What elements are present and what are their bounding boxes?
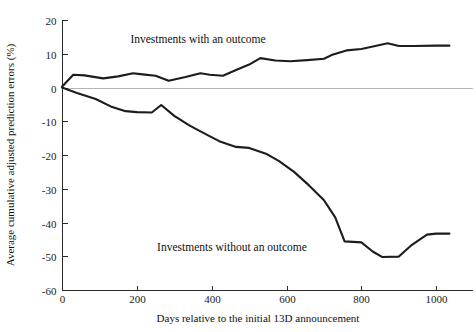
y-tick-label: 20 (46, 15, 58, 27)
series-annotations: Investments with an outcomeInvestments w… (130, 33, 306, 253)
series-annotation-2: Investments without an outcome (157, 241, 307, 253)
y-tick-label: 0 (51, 83, 57, 95)
x-tick-label: 200 (129, 293, 146, 305)
chart-figure: 20100-10-20-30-40-50-60 0200400600800100… (0, 0, 476, 332)
y-axis-title: Average cumulative adjusted prediction e… (4, 43, 17, 266)
y-tick-label: 10 (46, 49, 58, 61)
series-annotation-1: Investments with an outcome (130, 33, 265, 45)
y-tick-label: -50 (42, 251, 57, 263)
y-axis-tick-labels: 20100-10-20-30-40-50-60 (42, 15, 57, 297)
x-tick-label: 0 (60, 293, 66, 305)
y-tick-label: -30 (42, 184, 57, 196)
y-tick-label: -40 (42, 218, 57, 230)
x-axis-tick-labels: 02004006008001000 (60, 293, 448, 305)
x-tick-label: 800 (353, 293, 370, 305)
data-series-lines (62, 43, 449, 257)
x-tick-label: 400 (204, 293, 221, 305)
y-tick-label: -10 (42, 116, 57, 128)
x-axis-title: Days relative to the initial 13D announc… (157, 312, 360, 324)
line-chart: 20100-10-20-30-40-50-60 0200400600800100… (0, 0, 476, 332)
y-tick-label: -20 (42, 150, 57, 162)
x-tick-label: 1000 (426, 293, 449, 305)
y-tick-label: -60 (42, 285, 57, 297)
series-line-2 (62, 88, 449, 257)
x-tick-label: 600 (279, 293, 296, 305)
series-line-1 (62, 43, 449, 87)
